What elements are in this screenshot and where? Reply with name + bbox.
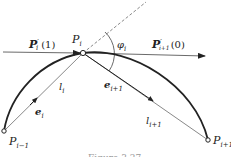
unit-vector-e-i [30,98,37,105]
spline-diagram: P′i(1) Pi φi P′i+1(0) li ei+1 ei li+1 Pi… [0,0,231,157]
label-phi-i: φi [117,39,126,53]
node-p-i-plus-1 [206,138,210,142]
unit-vector-e-i-plus-1 [83,53,153,101]
dashed-extension-line [83,2,146,53]
tangent-line-left [3,52,80,53]
label-tangent-right: P′i+1(0) [151,38,185,51]
label-e-i: ei [35,106,44,120]
label-p-i: Pi [71,33,82,48]
angle-arc-phi [105,32,114,71]
spline-curve [4,52,208,140]
label-p-i-minus-1: Pi−1 [8,135,29,150]
node-p-i-minus-1 [2,129,6,133]
figure-caption: Figure 3.27 [88,153,141,157]
label-l-i-plus-1: li+1 [146,115,162,129]
label-l-i: li [59,81,64,95]
label-tangent-left: P′i(1) [28,38,55,52]
label-e-i-plus-1: ei+1 [104,79,123,93]
label-p-i-plus-1: Pi+1 [212,134,231,149]
node-p-i [80,50,85,55]
